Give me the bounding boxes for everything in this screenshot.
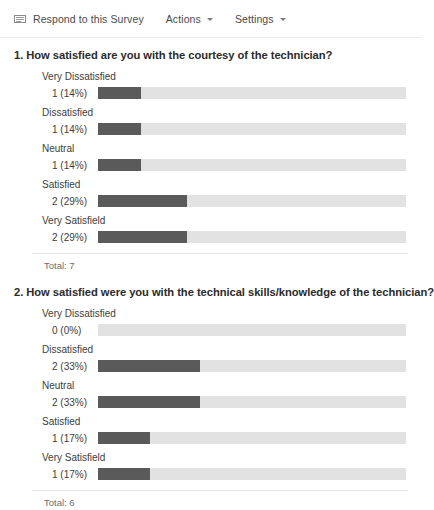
- answer-bar-track: [98, 123, 406, 135]
- answer-option-label: Very Dissatisfied: [32, 67, 412, 83]
- settings-menu-label: Settings: [235, 13, 274, 25]
- answer-count-label: 0 (0%): [32, 325, 98, 336]
- answer-bar-row: 0 (0%): [32, 320, 412, 340]
- answer-bar-fill: [98, 432, 150, 444]
- answer-option-label: Neutral: [32, 139, 412, 155]
- answer-bar-fill: [98, 123, 141, 135]
- respond-to-survey-label: Respond to this Survey: [33, 13, 144, 25]
- answer-option-label: Satisfied: [32, 175, 412, 191]
- chevron-down-icon: [207, 18, 213, 21]
- answer-count-label: 1 (17%): [32, 469, 98, 480]
- answer-option-label: Neutral: [32, 376, 412, 392]
- answer-option-label: Very Dissatisfied: [32, 304, 412, 320]
- question-block: 2. How satisfied were you with the techn…: [0, 275, 422, 510]
- answer-bar-track: [98, 468, 406, 480]
- answer-count-label: 1 (17%): [32, 433, 98, 444]
- answer-bar-fill: [98, 159, 141, 171]
- form-icon: [14, 14, 27, 24]
- chevron-down-icon: [280, 18, 286, 21]
- answer-count-label: 1 (14%): [32, 88, 98, 99]
- answer-bar-row: 1 (17%): [32, 428, 412, 448]
- answer-count-label: 2 (33%): [32, 361, 98, 372]
- answer-option-label: Satisfied: [32, 412, 412, 428]
- question-block: 1. How satisfied are you with the courte…: [0, 38, 422, 275]
- answer-bar-track: [98, 231, 406, 243]
- answer-bar-track: [98, 396, 406, 408]
- total-label: Total: 6: [10, 491, 412, 510]
- answer-rows: Very Dissatisfied1 (14%)Dissatisfied1 (1…: [10, 67, 412, 247]
- answer-bar-row: 1 (14%): [32, 83, 412, 103]
- answer-option-label: Very Satisfield: [32, 211, 412, 227]
- answer-bar-fill: [98, 396, 200, 408]
- actions-menu-label: Actions: [166, 13, 201, 25]
- answer-count-label: 2 (33%): [32, 397, 98, 408]
- answer-rows: Very Dissatisfied0 (0%)Dissatisfied2 (33…: [10, 304, 412, 484]
- answer-bar-row: 2 (33%): [32, 392, 412, 412]
- answer-bar-fill: [98, 231, 187, 243]
- answer-bar-row: 1 (17%): [32, 464, 412, 484]
- answer-bar-track: [98, 159, 406, 171]
- answer-bar-fill: [98, 87, 141, 99]
- answer-bar-row: 1 (14%): [32, 119, 412, 139]
- actions-menu[interactable]: Actions: [166, 13, 213, 25]
- answer-count-label: 1 (14%): [32, 160, 98, 171]
- answer-option-label: Dissatisfied: [32, 340, 412, 356]
- question-title: 2. How satisfied were you with the techn…: [10, 275, 412, 304]
- answer-bar-fill: [98, 360, 200, 372]
- answer-bar-row: 1 (14%): [32, 155, 412, 175]
- survey-toolbar: Respond to this Survey Actions Settings: [0, 0, 422, 38]
- answer-bar-track: [98, 324, 406, 336]
- question-title: 1. How satisfied are you with the courte…: [10, 38, 412, 67]
- answer-bar-row: 2 (29%): [32, 191, 412, 211]
- answer-bar-track: [98, 87, 406, 99]
- answer-count-label: 2 (29%): [32, 232, 98, 243]
- answer-bar-row: 2 (29%): [32, 227, 412, 247]
- survey-results: 1. How satisfied are you with the courte…: [0, 38, 422, 510]
- answer-option-label: Dissatisfied: [32, 103, 412, 119]
- answer-bar-track: [98, 432, 406, 444]
- answer-bar-fill: [98, 468, 150, 480]
- answer-option-label: Very Satisfield: [32, 448, 412, 464]
- settings-menu[interactable]: Settings: [235, 13, 286, 25]
- answer-count-label: 1 (14%): [32, 124, 98, 135]
- answer-count-label: 2 (29%): [32, 196, 98, 207]
- answer-bar-row: 2 (33%): [32, 356, 412, 376]
- respond-to-survey-button[interactable]: Respond to this Survey: [14, 13, 144, 25]
- answer-bar-track: [98, 360, 406, 372]
- answer-bar-fill: [98, 195, 187, 207]
- total-label: Total: 7: [10, 254, 412, 275]
- answer-bar-track: [98, 195, 406, 207]
